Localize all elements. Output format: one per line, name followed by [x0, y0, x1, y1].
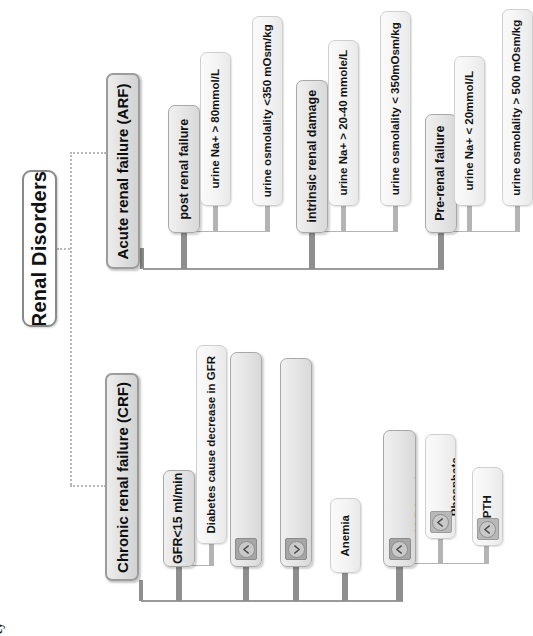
node-intrinsic-urine-osmolality[interactable]: urine osmolality < 350mOsm/kg: [380, 11, 411, 206]
node-label-alp-in-urine: ALP in urine: [414, 462, 416, 535]
node-label-arf: Acute renal failure (ARF): [116, 83, 131, 259]
node-diabetes-decrease-gfr[interactable]: Diabetes cause decrease in GFR: [196, 345, 227, 544]
pre-renal-stem: [438, 232, 444, 269]
pre-na-stem: [467, 205, 472, 232]
root-stub-connector: [57, 248, 70, 250]
node-label-intrinsic-renal-damage: intrinsic renal damage: [306, 90, 319, 223]
node-label-post-renal-urine-na: urine Na+ > 80mmol/L: [210, 69, 222, 189]
node-alp-in-urine[interactable]: ALP in urine: [383, 430, 416, 567]
root-spine-connector: [70, 152, 72, 485]
arrow-up-circle-icon: [430, 511, 452, 533]
root-to-crf-connector: [70, 485, 106, 487]
node-label-phosphate: Phosphate: [450, 457, 456, 516]
node-label-gfr: GFR<15 ml/min: [173, 473, 186, 564]
ca-blood-stem: [293, 566, 299, 601]
node-label-pre-renal-urine-na: urine Na+ < 20mmol/L: [464, 71, 476, 191]
node-acute-renal-failure[interactable]: Acute renal failure (ARF): [106, 73, 140, 269]
crf-node-stem: [139, 580, 143, 601]
node-label-crf: Chronic renal failure (CRF): [115, 382, 130, 573]
node-label-pre-renal-urine-osmolality: urine osmolality > 500 mOsm/kg: [512, 19, 524, 195]
anemia-stem: [342, 572, 348, 601]
root-to-arf-connector: [70, 152, 106, 154]
intr-na-stem: [341, 205, 346, 232]
node-post-renal-failure[interactable]: post renal failure: [168, 105, 200, 233]
node-post-renal-urine-na[interactable]: urine Na+ > 80mmol/L: [200, 52, 231, 206]
node-calcium-hypocalcemia[interactable]: Ca in Blood “Hypocalcemia”: [280, 358, 312, 567]
intr-osm-stem: [393, 205, 398, 232]
node-phosphate[interactable]: Phosphate: [425, 434, 456, 539]
post-osm-stem: [265, 205, 270, 232]
corner-artifact-text: ey: [0, 623, 6, 634]
root-node-label: Renal Disorders: [30, 170, 50, 326]
node-potassium-hyperkaliemia[interactable]: K+ in blood “Hyperkaliemia”: [230, 352, 262, 567]
gfr-stem: [176, 566, 182, 601]
node-intrinsic-renal-damage[interactable]: intrinsic renal damage: [296, 80, 328, 233]
post-renal-stem: [181, 232, 187, 269]
node-pth[interactable]: PTH: [472, 467, 503, 546]
node-label-anemia: Anemia: [340, 515, 352, 557]
pre-renal-subtrunk: [444, 231, 520, 232]
intrinsic-stem: [309, 232, 315, 269]
node-label-pth: PTH: [482, 495, 494, 518]
arrow-up-circle-icon: [235, 538, 257, 560]
node-intrinsic-urine-na[interactable]: urine Na+ > 20-40 mmole/L: [328, 40, 359, 206]
node-label-intrinsic-urine-osmolality: urine osmolality < 350mOsm/kg: [390, 22, 402, 195]
alp-stem: [396, 566, 403, 601]
post-renal-subtrunk: [187, 231, 270, 232]
node-label-post-renal-failure: post renal failure: [178, 119, 191, 220]
alp-subtrunk: [403, 563, 488, 564]
post-na-stem: [213, 205, 218, 232]
arrow-up-circle-icon: [389, 538, 411, 560]
node-post-renal-urine-osmolality[interactable]: urine osmolality <350 mOsm/kg: [252, 16, 283, 206]
node-pre-renal-urine-osmolality[interactable]: urine osmolality > 500 mOsm/kg: [502, 9, 533, 206]
diabetes-stem: [209, 543, 214, 566]
node-label-post-renal-urine-osmolality: urine osmolality <350 mOsm/kg: [262, 25, 274, 198]
arrow-down-circle-icon: [285, 538, 307, 560]
node-label-pre-renal-failure: Pre-renal failure: [435, 126, 448, 221]
root-node-renal-disorders[interactable]: Renal Disorders: [22, 170, 57, 327]
phosphate-stem: [438, 538, 443, 564]
arf-trunk-connector: [143, 268, 444, 270]
arrow-up-circle-icon: [477, 518, 499, 540]
pre-osm-stem: [515, 205, 520, 232]
pth-stem: [484, 546, 489, 564]
node-chronic-renal-failure[interactable]: Chronic renal failure (CRF): [105, 373, 139, 581]
node-pre-renal-failure[interactable]: Pre-renal failure: [425, 114, 457, 233]
node-anemia[interactable]: Anemia: [330, 498, 361, 573]
k-blood-stem: [243, 566, 249, 601]
node-gfr[interactable]: GFR<15 ml/min: [163, 470, 195, 567]
arf-node-stem: [140, 248, 144, 269]
node-pre-renal-urine-na[interactable]: urine Na+ < 20mmol/L: [454, 56, 485, 206]
intrinsic-subtrunk: [315, 231, 398, 232]
node-label-intrinsic-urine-na: urine Na+ > 20-40 mmole/L: [338, 50, 350, 196]
node-label-diabetes-decrease-gfr: Diabetes cause decrease in GFR: [206, 356, 218, 534]
